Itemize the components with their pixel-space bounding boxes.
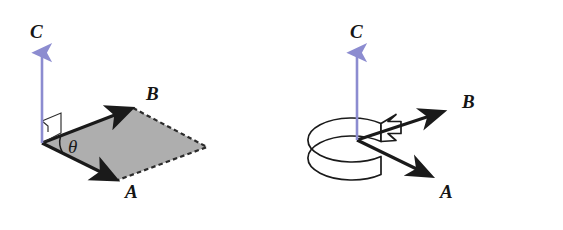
parallelogram-panel: C B A θ (30, 21, 207, 202)
cross-product-figure: C B A θ C B A (0, 0, 563, 230)
label-a-left: A (124, 181, 138, 202)
parallelogram-fill (42, 108, 207, 180)
rotation-band-arrow (308, 115, 401, 180)
label-c-right: C (350, 21, 363, 42)
label-b-left: B (145, 83, 159, 104)
right-hand-rule-panel: C B A (308, 21, 475, 202)
label-b-right: B (461, 91, 475, 112)
label-a-right: A (439, 181, 453, 202)
figure-canvas: C B A θ C B A (0, 0, 563, 230)
label-c-left: C (30, 21, 43, 42)
label-theta: θ (68, 136, 77, 157)
